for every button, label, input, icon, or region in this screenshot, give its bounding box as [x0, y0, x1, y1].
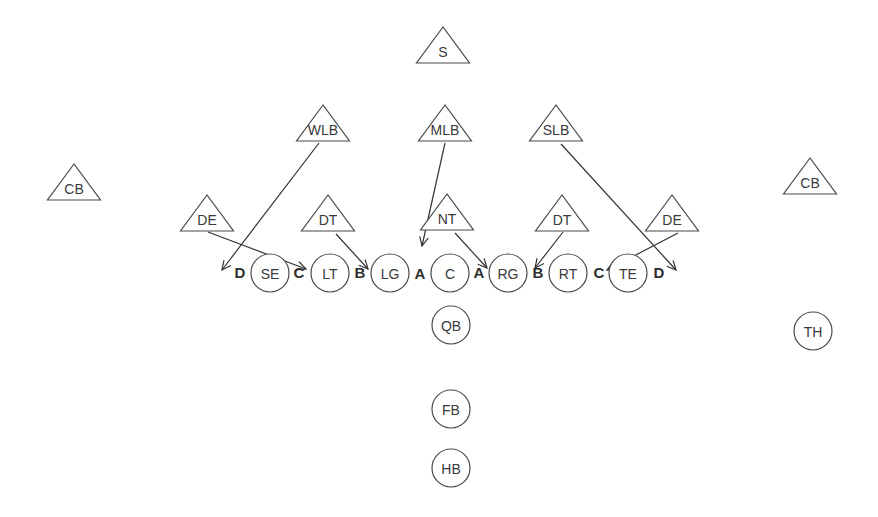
defender-s: S [417, 27, 470, 63]
route-line [561, 144, 676, 270]
defender-label: SLB [543, 122, 569, 138]
defender-label: DT [319, 212, 338, 228]
player-c: C [431, 254, 469, 292]
player-te: TE [609, 254, 647, 292]
player-se: SE [251, 254, 289, 292]
defender-slb: SLB [530, 105, 583, 141]
defender-label: DE [662, 212, 681, 228]
route-wlb [222, 143, 319, 270]
player-qb: QB [432, 306, 470, 344]
gap-label-b: B [355, 264, 366, 281]
defender-dt-l: DT [302, 195, 355, 231]
defender-label: CB [64, 181, 83, 197]
defender-label: NT [438, 211, 457, 227]
gap-label-a: A [474, 264, 485, 281]
player-lg: LG [371, 254, 409, 292]
player-label: SE [261, 266, 280, 282]
player-label: QB [441, 318, 461, 334]
defender-label: DT [553, 212, 572, 228]
play-diagram: SWLBMLBSLBCBCBDEDTNTDTDE SELTLGCRGRTTEQB… [0, 0, 878, 517]
route-line [222, 143, 319, 270]
gap-label-c: C [294, 264, 305, 281]
offense-formation: SELTLGCRGRTTEQBFBHBTH [251, 254, 832, 487]
gap-label-d: D [235, 264, 246, 281]
defender-wlb: WLB [297, 105, 350, 141]
defender-cb-l: CB [48, 164, 101, 200]
defender-nt: NT [421, 194, 474, 230]
defender-label: WLB [308, 122, 338, 138]
gap-label-d: D [654, 264, 665, 281]
player-label: LT [322, 266, 338, 282]
defender-cb-r: CB [784, 158, 837, 194]
gap-label-a: A [415, 265, 426, 282]
player-label: TE [619, 266, 637, 282]
player-fb: FB [432, 390, 470, 428]
player-lt: LT [311, 254, 349, 292]
defender-label: DE [197, 212, 216, 228]
defense-formation: SWLBMLBSLBCBCBDEDTNTDTDE [48, 27, 837, 231]
player-rg: RG [489, 254, 527, 292]
defender-label: S [438, 44, 447, 60]
player-label: HB [441, 461, 460, 477]
player-label: RG [498, 266, 519, 282]
player-rt: RT [549, 254, 587, 292]
player-hb: HB [432, 449, 470, 487]
player-label: C [445, 266, 455, 282]
gap-label-b: B [533, 264, 544, 281]
player-label: RT [559, 266, 578, 282]
defender-label: CB [800, 175, 819, 191]
defender-dt-r: DT [536, 195, 589, 231]
player-label: FB [442, 402, 460, 418]
player-th: TH [794, 312, 832, 350]
gap-label-c: C [594, 264, 605, 281]
defender-de-l: DE [181, 195, 234, 231]
player-label: LG [381, 266, 400, 282]
player-label: TH [804, 324, 823, 340]
defender-mlb: MLB [419, 105, 472, 141]
defender-label: MLB [431, 122, 460, 138]
defender-de-r: DE [646, 195, 699, 231]
route-slb [561, 144, 676, 270]
